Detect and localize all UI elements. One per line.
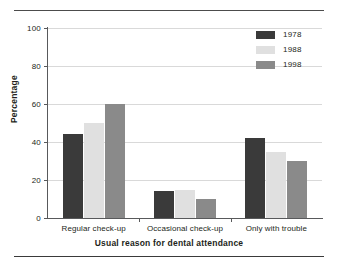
- x-axis-label-1: Occasional check-up: [147, 224, 223, 233]
- bar-1988-2[interactable]: [266, 152, 286, 219]
- legend-item-1988[interactable]: 1988: [256, 42, 302, 57]
- y-tick-mark-40: [44, 142, 48, 143]
- bar-1998-2[interactable]: [287, 161, 307, 218]
- y-tick-label-20: 20: [32, 176, 41, 185]
- y-tick-label-60: 60: [32, 100, 41, 109]
- x-axis-title: Usual reason for dental attendance: [0, 238, 338, 248]
- chart-legend: 197819881998: [256, 27, 302, 72]
- bar-1998-0[interactable]: [105, 104, 125, 218]
- y-tick-mark-20: [44, 180, 48, 181]
- legend-label-1978: 1978: [283, 30, 302, 39]
- bar-group: [63, 28, 125, 218]
- bar-group: [154, 28, 216, 218]
- legend-swatch-1978: [256, 31, 275, 39]
- x-axis-separator-2: [231, 218, 232, 222]
- bar-1978-0[interactable]: [63, 134, 83, 218]
- y-tick-label-100: 100: [27, 24, 41, 33]
- x-axis-label-0: Regular check-up: [62, 224, 126, 233]
- y-tick-mark-100: [44, 28, 48, 29]
- bar-1988-0[interactable]: [84, 123, 104, 218]
- y-tick-label-40: 40: [32, 138, 41, 147]
- y-tick-label-80: 80: [32, 62, 41, 71]
- gridline-0: [48, 218, 322, 219]
- legend-swatch-1988: [256, 46, 275, 54]
- bar-1978-2[interactable]: [245, 138, 265, 218]
- bar-1998-1[interactable]: [196, 199, 216, 218]
- legend-item-1978[interactable]: 1978: [256, 27, 302, 42]
- bar-1978-1[interactable]: [154, 191, 174, 218]
- y-tick-mark-0: [44, 218, 48, 219]
- legend-label-1988: 1988: [283, 45, 302, 54]
- y-tick-mark-60: [44, 104, 48, 105]
- legend-swatch-1998: [256, 61, 275, 69]
- x-axis-separator-1: [139, 218, 140, 222]
- y-axis-title: Percentage: [9, 75, 19, 123]
- y-tick-mark-80: [44, 66, 48, 67]
- bar-1988-1[interactable]: [175, 190, 195, 219]
- legend-label-1998: 1998: [283, 60, 302, 69]
- legend-item-1998[interactable]: 1998: [256, 57, 302, 72]
- x-axis-label-2: Only with trouble: [246, 224, 307, 233]
- top-divider-rule: [14, 10, 324, 11]
- y-tick-label-0: 0: [36, 214, 41, 223]
- bottom-divider-rule: [14, 256, 324, 257]
- bar-chart-figure: Percentage 020406080100 Regular check-up…: [0, 0, 338, 265]
